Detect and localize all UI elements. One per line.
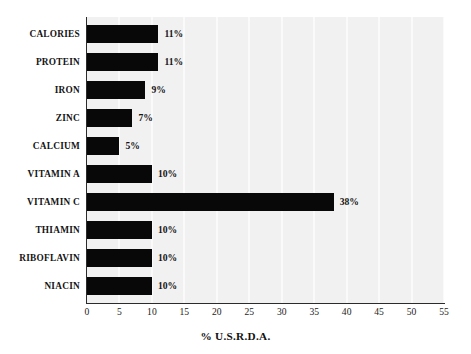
x-tick-label: 5 (104, 306, 134, 317)
bar-value-label: 11% (164, 20, 183, 48)
bar (87, 277, 152, 295)
x-tick-label: 40 (332, 306, 362, 317)
x-axis-line (86, 303, 445, 304)
category-label: IRON (0, 76, 80, 104)
bar-row: IRON9% (0, 76, 471, 104)
category-label: PROTEIN (0, 48, 80, 76)
bar (87, 109, 132, 127)
category-label: NIACIN (0, 272, 80, 300)
category-label: VITAMIN A (0, 160, 80, 188)
bar-value-label: 11% (164, 48, 183, 76)
bar-row: CALORIES11% (0, 20, 471, 48)
category-label: RIBOFLAVIN (0, 244, 80, 272)
bar (87, 165, 152, 183)
x-tick-label: 45 (364, 306, 394, 317)
bar-value-label: 5% (125, 132, 139, 160)
bar-row: PROTEIN11% (0, 48, 471, 76)
bar-value-label: 10% (158, 160, 177, 188)
bar-value-label: 10% (158, 216, 177, 244)
x-tick-label: 20 (202, 306, 232, 317)
bar (87, 53, 158, 71)
x-tick-label: 15 (169, 306, 199, 317)
bar-row: VITAMIN C38% (0, 188, 471, 216)
x-tick-label: 55 (429, 306, 459, 317)
category-label: ZINC (0, 104, 80, 132)
bar-row: VITAMIN A10% (0, 160, 471, 188)
bar-row: THIAMIN10% (0, 216, 471, 244)
x-tick-label: 0 (72, 306, 102, 317)
bar (87, 137, 119, 155)
bar (87, 25, 158, 43)
bar-row: CALCIUM5% (0, 132, 471, 160)
category-label: CALORIES (0, 20, 80, 48)
x-tick-label: 30 (267, 306, 297, 317)
x-tick-label: 25 (234, 306, 264, 317)
bar-value-label: 10% (158, 272, 177, 300)
bar-chart: CALORIES11%PROTEIN11%IRON9%ZINC7%CALCIUM… (0, 0, 471, 354)
category-label: VITAMIN C (0, 188, 80, 216)
bar-value-label: 9% (151, 76, 165, 104)
bar (87, 221, 152, 239)
bar (87, 193, 334, 211)
bar-row: NIACIN10% (0, 272, 471, 300)
x-tick-label: 50 (397, 306, 427, 317)
bar-row: RIBOFLAVIN10% (0, 244, 471, 272)
bar (87, 249, 152, 267)
bar-value-label: 10% (158, 244, 177, 272)
category-label: THIAMIN (0, 216, 80, 244)
x-tick-label: 10 (137, 306, 167, 317)
bar-value-label: 38% (340, 188, 359, 216)
x-axis-title: % U.S.R.D.A. (0, 330, 471, 342)
x-tick-label: 35 (299, 306, 329, 317)
bar (87, 81, 145, 99)
bar-row: ZINC7% (0, 104, 471, 132)
category-label: CALCIUM (0, 132, 80, 160)
bar-value-label: 7% (138, 104, 152, 132)
